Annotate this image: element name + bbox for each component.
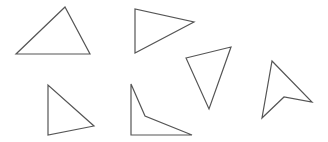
canvas-background: [0, 0, 328, 142]
shapes-canvas: [0, 0, 328, 142]
